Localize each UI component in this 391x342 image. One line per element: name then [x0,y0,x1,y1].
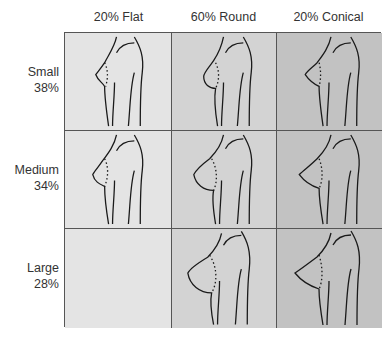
torso-large-conical-icon [277,229,382,328]
torso-small-round-icon [172,33,276,130]
row-label: Medium [0,162,59,178]
column-header-round: 60% Round [171,10,276,24]
cell-small-flat [65,33,172,131]
row-percent: 28% [0,276,59,292]
torso-medium-flat-icon [65,131,171,228]
row-label: Small [0,64,59,80]
column-header-flat: 20% Flat [66,10,171,24]
row-header-medium: Medium 34% [0,162,59,194]
torso-small-flat-icon [65,33,171,130]
cell-large-round [172,229,277,328]
row-header-small: Small 38% [0,64,59,96]
column-header-conical: 20% Conical [276,10,381,24]
row-header-large: Large 28% [0,260,59,292]
cut-off-title [0,0,391,3]
cell-large-conical [277,229,382,328]
cell-small-conical [277,33,382,131]
torso-medium-round-icon [172,131,276,228]
cell-medium-flat [65,131,172,229]
cell-medium-conical [277,131,382,229]
row-percent: 38% [0,80,59,96]
torso-large-round-icon [172,229,276,328]
shape-size-grid [64,32,381,327]
row-label: Large [0,260,59,276]
cell-small-round [172,33,277,131]
cell-medium-round [172,131,277,229]
row-percent: 34% [0,178,59,194]
torso-small-conical-icon [277,33,382,130]
torso-medium-conical-icon [277,131,382,228]
cell-large-flat-empty [65,229,172,328]
